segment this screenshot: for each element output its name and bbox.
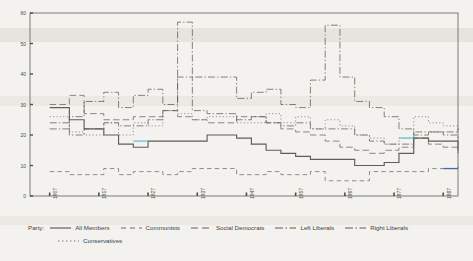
y-axis-tick-label: 0 (10, 193, 26, 199)
legend-label: Conservatives (83, 237, 122, 244)
x-axis-tick-label: 1957 (298, 188, 304, 199)
legend-item-conservatives: Conservatives (58, 237, 122, 244)
x-axis-tick-label: 1967 (347, 188, 353, 199)
series-line-all-members (50, 108, 458, 166)
y-axis-tick-label: 50 (10, 41, 26, 47)
legend-swatch-dashed-icon (121, 225, 142, 231)
series-line-conservatives (50, 111, 458, 145)
legend-row-2: Conservatives (28, 234, 468, 247)
legend-item-left-liberals: Left Liberals (275, 224, 334, 231)
series-line-left-liberals (50, 22, 458, 135)
x-axis-tick-label: 1907 (52, 188, 58, 199)
x-axis-tick-label: 1927 (150, 188, 156, 199)
legend-item-right-liberals: Right Liberals (345, 224, 408, 231)
legend-swatch-dotted-icon (58, 238, 79, 244)
legend-item-social-democrats: Social Democrats (191, 224, 265, 231)
x-axis-tick-label: 1947 (249, 188, 255, 199)
series-line-right-liberals (50, 77, 458, 144)
x-axis-tick-label: 1937 (200, 188, 206, 199)
legend-label: Social Democrats (216, 224, 265, 231)
legend-title: Party: (28, 224, 44, 231)
y-axis-tick-label: 40 (10, 71, 26, 77)
legend-swatch-longdash-icon (191, 225, 212, 231)
x-axis-tick-label: 1987 (446, 188, 452, 199)
legend-swatch-dashdot-icon (275, 225, 296, 231)
series-line-communists (50, 166, 458, 181)
legend-item-communists: Communists (121, 224, 180, 231)
y-axis-tick-label: 30 (10, 102, 26, 108)
x-axis-tick-label: 1977 (396, 188, 402, 199)
plot-frame (30, 13, 458, 196)
x-axis-tick-label: 1917 (101, 188, 107, 199)
legend-item-all-members: All Members (50, 224, 109, 231)
y-axis-tick-label: 20 (10, 132, 26, 138)
legend-swatch-solid-icon (50, 225, 71, 231)
chart-legend: Party: All Members Communists Social Dem… (28, 221, 468, 247)
legend-label: Communists (146, 224, 180, 231)
legend-label: All Members (75, 224, 109, 231)
legend-swatch-dashdot2-icon (345, 225, 366, 231)
legend-label: Right Liberals (370, 224, 408, 231)
y-axis-tick-label: 10 (10, 163, 26, 169)
legend-label: Left Liberals (300, 224, 334, 231)
y-axis-tick-label: 60 (10, 10, 26, 16)
legend-row-1: Party: All Members Communists Social Dem… (28, 221, 468, 234)
